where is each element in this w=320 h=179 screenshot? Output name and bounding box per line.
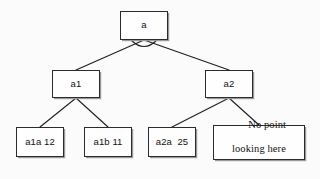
root-arc <box>131 40 157 47</box>
tree-node-root-label: a <box>141 20 146 31</box>
edge-a1-a1a <box>40 98 76 127</box>
edge-a2-a2a <box>172 98 229 127</box>
tree-node-a1b-label: a1b 11 <box>94 137 123 148</box>
tree-node-a2a-label: a2a 25 <box>156 137 188 148</box>
tree-node-no-point[interactable]: No point looking here <box>213 125 305 160</box>
tree-node-a1b[interactable]: a1b 11 <box>84 127 132 157</box>
tree-node-a1a[interactable]: a1a 12 <box>16 127 64 157</box>
tree-node-a1a-label: a1a 12 <box>25 137 55 148</box>
edge-a1-a1b <box>76 98 108 127</box>
tree-node-a2[interactable]: a2 <box>205 70 253 98</box>
tree-node-no-point-line2: looking here <box>232 143 286 155</box>
tree-node-a1-label: a1 <box>71 79 82 90</box>
tree-node-a2a[interactable]: a2a 25 <box>148 127 196 157</box>
tree-node-root[interactable]: a <box>120 11 168 40</box>
tree-diagram: a a1 a2 a1a 12 a1b 11 a2a 25 No point lo… <box>0 0 320 179</box>
tree-node-no-point-label: No point looking here <box>232 107 286 178</box>
edge-root-a1 <box>76 40 144 70</box>
edge-root-a2 <box>144 40 229 70</box>
tree-node-a2-label: a2 <box>224 79 235 90</box>
tree-node-a1[interactable]: a1 <box>52 70 100 98</box>
tree-node-no-point-line1: No point <box>248 119 286 130</box>
